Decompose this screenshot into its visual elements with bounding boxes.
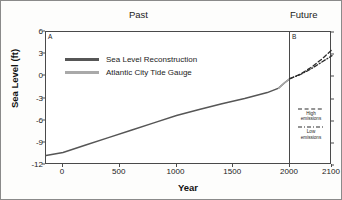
past-series-plot	[46, 32, 290, 165]
x-tick-label: 500	[112, 167, 125, 176]
y-tick-label: -6	[3, 115, 43, 124]
legend-swatch	[65, 58, 99, 60]
y-tick-label: -9	[3, 137, 43, 146]
future-legend-item: Highemissions	[293, 107, 329, 121]
future-legend-label: emissions	[293, 116, 329, 121]
main-legend: Sea Level ReconstructionAtlantic City Ti…	[65, 53, 197, 79]
future-legend-swatch	[298, 125, 324, 129]
past-section-label: Past	[129, 9, 148, 20]
y-tick-label: -3	[3, 93, 43, 102]
y-tick-label: 3	[3, 49, 43, 58]
future-legend-swatch	[298, 107, 324, 111]
legend-item: Atlantic City Tide Gauge	[65, 66, 197, 79]
x-tick-mark	[331, 164, 332, 167]
x-tick-mark	[119, 164, 120, 167]
panel-b-future: B	[289, 31, 331, 164]
right-tick-mark	[331, 76, 334, 77]
x-tick-label: 2000	[280, 167, 298, 176]
legend-item: Sea Level Reconstruction	[65, 53, 197, 66]
legend-swatch	[65, 71, 99, 73]
x-axis-label: Year	[45, 182, 331, 193]
y-tick-label: 0	[3, 71, 43, 80]
future-series-plot	[290, 32, 332, 165]
y-tick-label: -12	[3, 160, 43, 169]
legend-label: Sea Level Reconstruction	[106, 55, 197, 64]
x-tick-mark	[62, 164, 63, 167]
right-tick-mark	[331, 32, 334, 33]
future-section-label: Future	[290, 9, 317, 20]
series-line	[46, 79, 290, 156]
right-tick-mark	[331, 120, 334, 121]
x-tick-label: 1000	[167, 167, 185, 176]
x-tick-label: 1500	[223, 167, 241, 176]
future-legend-label: emissions	[293, 135, 329, 140]
y-tick-label: 6	[3, 27, 43, 36]
x-tick-mark	[176, 164, 177, 167]
future-legend-item: Lowemissions	[293, 125, 329, 139]
x-tick-label: 0	[60, 167, 64, 176]
x-tick-mark	[232, 164, 233, 167]
x-tick-label: 2100	[322, 167, 340, 176]
future-legend: HighemissionsLowemissions	[293, 107, 329, 144]
panel-a-past: A	[45, 31, 289, 164]
series-line	[290, 50, 332, 79]
legend-label: Atlantic City Tide Gauge	[106, 68, 192, 77]
right-tick-mark	[331, 142, 334, 143]
figure-container: Past Future Sea Level (ft) 630-3-6-9-12 …	[0, 0, 342, 200]
right-tick-mark	[331, 98, 334, 99]
x-tick-mark	[289, 164, 290, 167]
right-tick-mark	[331, 54, 334, 55]
